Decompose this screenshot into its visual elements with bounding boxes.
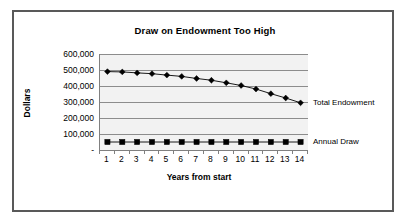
data-point-marker <box>105 139 110 144</box>
series-annual-draw <box>105 139 303 144</box>
data-point-marker <box>120 139 125 144</box>
x-axis-tick-label: 3 <box>128 155 144 164</box>
x-axis-tick-label: 6 <box>173 155 189 164</box>
data-point-marker <box>298 100 304 106</box>
x-axis-tick-label: 11 <box>247 155 263 164</box>
y-axis-tick-label: 500,000 <box>42 66 94 75</box>
x-axis-tick-mark <box>144 150 145 154</box>
series-line <box>107 72 300 103</box>
y-axis-tick-label: 100,000 <box>42 130 94 139</box>
x-axis-tick-label: 12 <box>262 155 278 164</box>
y-axis-tick-label: 400,000 <box>42 82 94 91</box>
x-axis-title: Years from start <box>54 172 344 182</box>
series-label-total-endowment: Total Endowment <box>313 99 374 107</box>
series-total-endowment <box>105 69 304 106</box>
data-point-marker <box>209 139 214 144</box>
x-axis-tick-label: 1 <box>98 155 114 164</box>
y-axis-tick-labels: 600,000500,000400,000300,000200,000100,0… <box>42 12 94 172</box>
x-axis-tick-label: 13 <box>277 155 293 164</box>
x-axis-tick-mark <box>129 150 130 154</box>
plot-area <box>99 54 308 151</box>
x-axis-tick-mark <box>307 150 308 154</box>
data-point-marker <box>224 139 229 144</box>
data-point-marker <box>149 139 154 144</box>
x-axis-tick-mark <box>292 150 293 154</box>
series-label-annual-draw: Annual Draw <box>313 138 359 146</box>
x-axis-tick-label: 9 <box>217 155 233 164</box>
data-point-marker <box>283 139 288 144</box>
data-point-marker <box>223 80 229 86</box>
data-point-marker <box>283 95 289 101</box>
data-point-marker <box>238 83 244 89</box>
x-axis-tick-marks <box>99 150 308 154</box>
data-point-marker <box>164 72 170 78</box>
x-axis-tick-mark <box>114 150 115 154</box>
series-plot <box>100 54 308 150</box>
x-axis-tick-label: 2 <box>113 155 129 164</box>
x-axis-tick-mark <box>277 150 278 154</box>
data-point-marker <box>209 77 215 83</box>
x-axis-tick-labels: 1234567891011121314 <box>99 155 308 167</box>
x-axis-tick-label: 10 <box>232 155 248 164</box>
data-point-marker <box>298 139 303 144</box>
x-axis-tick-mark <box>218 150 219 154</box>
data-point-marker <box>105 69 111 75</box>
x-axis-tick-mark <box>99 150 100 154</box>
data-point-marker <box>268 91 274 97</box>
x-axis-tick-label: 4 <box>143 155 159 164</box>
data-point-marker <box>179 139 184 144</box>
x-axis-tick-label: 7 <box>188 155 204 164</box>
data-point-marker <box>194 139 199 144</box>
x-axis-tick-mark <box>158 150 159 154</box>
x-axis-tick-label: 5 <box>158 155 174 164</box>
x-axis-tick-mark <box>248 150 249 154</box>
y-axis-tick-label: - <box>42 146 94 155</box>
data-point-marker <box>134 70 140 76</box>
data-point-marker <box>119 69 125 75</box>
chart-frame: Draw on Endowment Too High Dollars 600,0… <box>12 10 394 212</box>
y-axis-tick-label: 300,000 <box>42 98 94 107</box>
x-axis-tick-mark <box>173 150 174 154</box>
data-point-marker <box>149 71 155 77</box>
y-axis-tick-label: 200,000 <box>42 114 94 123</box>
x-axis-tick-label: 14 <box>292 155 308 164</box>
x-axis-tick-mark <box>262 150 263 154</box>
y-axis-title: Dollars <box>22 73 32 133</box>
data-point-marker <box>253 139 258 144</box>
data-point-marker <box>135 139 140 144</box>
x-axis-tick-mark <box>203 150 204 154</box>
x-axis-tick-mark <box>188 150 189 154</box>
data-point-marker <box>268 139 273 144</box>
x-axis-tick-label: 8 <box>202 155 218 164</box>
y-axis-tick-label: 600,000 <box>42 50 94 59</box>
data-point-marker <box>239 139 244 144</box>
data-point-marker <box>253 86 259 92</box>
x-axis-tick-mark <box>233 150 234 154</box>
data-point-marker <box>194 76 200 82</box>
data-point-marker <box>179 74 185 80</box>
data-point-marker <box>164 139 169 144</box>
